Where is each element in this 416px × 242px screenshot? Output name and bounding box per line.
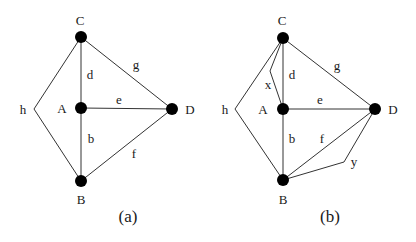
- node-C: [75, 31, 87, 43]
- caption-a: (a): [119, 207, 138, 226]
- node-C: [277, 32, 289, 44]
- node-B: [75, 175, 87, 187]
- node-label-B: B: [77, 192, 86, 207]
- node-label-C: C: [278, 13, 287, 28]
- edge-label-x: x: [265, 77, 272, 92]
- edge-label-e: e: [317, 92, 323, 107]
- node-label-A: A: [57, 101, 67, 116]
- node-label-B: B: [279, 192, 288, 207]
- edge-x: [270, 38, 283, 109]
- edge-label-g: g: [334, 58, 341, 73]
- edge-f: [81, 109, 172, 181]
- node-label-D: D: [185, 102, 194, 117]
- edge-f: [283, 109, 375, 180]
- edge-label-d: d: [289, 67, 296, 82]
- edge-label-f: f: [132, 146, 137, 161]
- edge-label-h: h: [20, 102, 27, 117]
- panel-b: C A B D d x b e g f y h (b): [222, 13, 398, 226]
- edge-g: [283, 38, 375, 109]
- node-D: [166, 103, 178, 115]
- edge-label-h: h: [222, 102, 229, 117]
- edge-g: [81, 37, 172, 109]
- edge-e: [81, 108, 172, 109]
- node-label-A: A: [258, 102, 268, 117]
- node-label-D: D: [388, 102, 397, 117]
- graph-figure: C A B D d b e g f h (a) C A B D d x b e …: [0, 0, 416, 242]
- edge-label-y: y: [351, 154, 358, 169]
- node-D: [369, 103, 381, 115]
- node-label-C: C: [76, 13, 85, 28]
- edge-label-b: b: [88, 131, 95, 146]
- edge-label-e: e: [116, 92, 122, 107]
- node-B: [277, 174, 289, 186]
- node-A: [75, 102, 87, 114]
- edge-label-d: d: [87, 67, 94, 82]
- caption-b: (b): [320, 207, 340, 226]
- edge-label-g: g: [133, 57, 140, 72]
- node-A: [277, 103, 289, 115]
- edge-label-f: f: [320, 131, 325, 146]
- edge-label-b: b: [289, 131, 296, 146]
- panel-a: C A B D d b e g f h (a): [20, 13, 195, 226]
